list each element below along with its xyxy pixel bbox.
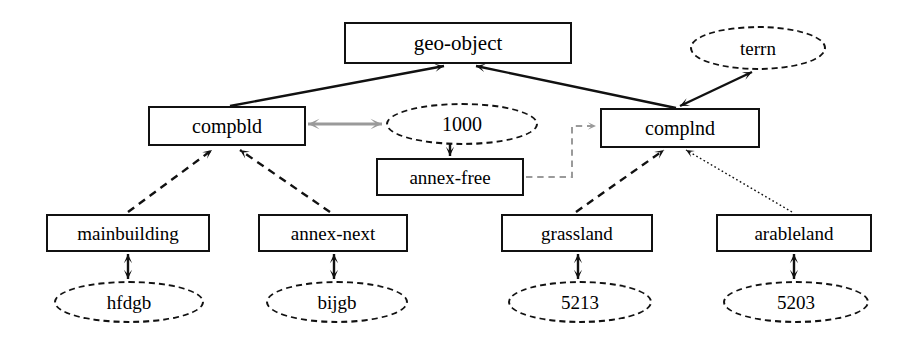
edge-line	[576, 150, 664, 212]
node-geo-object[interactable]: geo-object	[344, 22, 572, 64]
edge-line	[128, 150, 212, 212]
node-label: complnd	[645, 118, 715, 138]
node-bijgb[interactable]: bijgb	[266, 281, 408, 323]
edge-compbld-to-geo-object	[230, 64, 444, 106]
arrowhead	[588, 122, 596, 129]
arrowhead	[202, 150, 212, 159]
arrowhead	[124, 270, 132, 279]
arrowhead	[790, 254, 798, 263]
edge-line	[476, 66, 676, 108]
arrowhead	[790, 270, 798, 279]
edge-annex-next-to-bijgb	[330, 254, 338, 279]
edge-compbld-to-1000	[308, 119, 382, 129]
node-hfdgb[interactable]: hfdgb	[54, 281, 204, 323]
arrowhead	[686, 150, 695, 157]
arrowhead	[434, 64, 444, 72]
arrowhead	[240, 150, 250, 159]
node-compbld[interactable]: compbld	[148, 106, 306, 146]
arrowhead	[370, 119, 382, 129]
edge-arableland-to-5203	[790, 254, 798, 279]
edge-line	[526, 126, 596, 177]
edge-grassland-to-complnd	[576, 150, 664, 212]
arrowhead	[742, 72, 752, 80]
edge-line	[680, 72, 752, 106]
node-label: arableland	[754, 224, 833, 243]
node-label: annex-next	[291, 224, 375, 243]
arrowhead	[330, 254, 338, 263]
edge-annex-next-to-compbld	[240, 150, 330, 212]
node-grassland[interactable]: grassland	[501, 214, 653, 252]
node-label: 1000	[442, 114, 482, 134]
node-label: grassland	[541, 224, 613, 243]
edge-grassland-to-5213	[574, 254, 582, 279]
arrowhead	[124, 254, 132, 263]
arrowhead	[308, 119, 320, 129]
edge-arableland-to-complnd	[686, 150, 792, 212]
node-5213[interactable]: 5213	[508, 281, 652, 323]
edge-mainbuilding-to-hfdgb	[124, 254, 132, 279]
diagram-canvas: geo-objectterrncompbld1000complndannex-f…	[0, 0, 919, 342]
arrowhead	[476, 64, 486, 72]
arrowhead	[680, 98, 690, 106]
node-label: geo-object	[414, 33, 503, 54]
node-annex-next[interactable]: annex-next	[258, 214, 408, 252]
arrowhead	[574, 254, 582, 263]
edge-annex-free-to-complnd	[526, 122, 596, 177]
node-label: 5213	[561, 293, 599, 312]
edge-line	[686, 150, 792, 212]
node-complnd[interactable]: complnd	[600, 108, 760, 148]
node-5203[interactable]: 5203	[723, 281, 869, 323]
edge-mainbuilding-to-compbld	[128, 150, 212, 212]
node-label: bijgb	[317, 293, 356, 312]
edge-line	[240, 150, 330, 212]
node-label: terrn	[740, 39, 776, 58]
arrowhead	[330, 270, 338, 279]
node-mainbuilding[interactable]: mainbuilding	[46, 214, 210, 252]
node-label: annex-free	[409, 168, 490, 187]
node-label: compbld	[192, 116, 262, 136]
edge-line	[230, 66, 444, 106]
node-terrn[interactable]: terrn	[690, 26, 826, 70]
node-label: 5203	[777, 293, 815, 312]
node-annex-free[interactable]: annex-free	[376, 158, 524, 196]
node-label: hfdgb	[107, 293, 151, 312]
node-1000[interactable]: 1000	[386, 103, 538, 145]
arrowhead	[446, 147, 454, 156]
edge-complnd-to-geo-object	[476, 64, 676, 108]
edge-complnd-to-terrn	[680, 72, 752, 106]
arrowhead	[574, 270, 582, 279]
arrowhead	[654, 150, 664, 159]
node-label: mainbuilding	[77, 224, 178, 243]
node-arableland[interactable]: arableland	[716, 214, 872, 252]
